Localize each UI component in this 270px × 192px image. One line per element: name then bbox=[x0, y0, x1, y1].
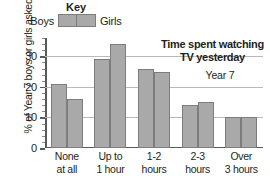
x-category-label-1: Up to1 hour bbox=[89, 150, 133, 175]
chart-title-line1: Time spent watching bbox=[161, 38, 264, 50]
x-category-label-line: at all bbox=[45, 163, 89, 176]
legend-swatches bbox=[58, 14, 96, 27]
bar-boys-3 bbox=[182, 105, 198, 148]
x-axis-category-labels: Noneat allUp to1 hour1-2hours2-3hoursOve… bbox=[45, 150, 263, 182]
x-category-label-line: hours bbox=[132, 163, 176, 176]
bar-boys-2 bbox=[138, 69, 154, 148]
x-category-label-line: 1 hour bbox=[89, 163, 133, 176]
bar-girls-0 bbox=[67, 99, 83, 148]
year-annotation: Year 7 bbox=[175, 69, 265, 81]
x-category-label-line: None bbox=[45, 150, 89, 163]
chart-page: Key Boys Girls % of Year 7 boys or girls… bbox=[0, 0, 270, 192]
y-tick-label: 30 bbox=[25, 50, 37, 62]
x-category-label-line: Over bbox=[219, 150, 263, 163]
y-tick-label: 10 bbox=[25, 111, 37, 123]
x-category-label-4: Over3 hours bbox=[219, 150, 263, 175]
legend-swatch-girls bbox=[77, 14, 96, 27]
chart-title-line2: TV yesterday bbox=[180, 51, 245, 63]
x-category-label-line: hours bbox=[176, 163, 220, 176]
x-category-label-line: 1-2 bbox=[132, 150, 176, 163]
x-category-label-line: Up to bbox=[89, 150, 133, 163]
x-category-label-0: Noneat all bbox=[45, 150, 89, 175]
bar-girls-2 bbox=[154, 72, 170, 148]
x-category-label-line: 3 hours bbox=[219, 163, 263, 176]
bar-boys-4 bbox=[225, 117, 241, 148]
bar-boys-1 bbox=[94, 59, 110, 148]
y-tick-label: 20 bbox=[25, 81, 37, 93]
x-category-label-line: 2-3 bbox=[176, 150, 220, 163]
bar-boys-0 bbox=[51, 84, 67, 148]
legend-swatch-boys bbox=[58, 14, 77, 27]
x-category-label-2: 1-2hours bbox=[132, 150, 176, 175]
bar-girls-1 bbox=[110, 44, 126, 148]
chart-title: Time spent watching TV yesterday bbox=[155, 38, 270, 64]
x-category-label-3: 2-3hours bbox=[176, 150, 220, 175]
legend-label-girls: Girls bbox=[100, 15, 122, 27]
bar-girls-3 bbox=[198, 102, 214, 148]
bar-girls-4 bbox=[241, 117, 257, 148]
y-tick-label: 0 bbox=[31, 142, 37, 154]
